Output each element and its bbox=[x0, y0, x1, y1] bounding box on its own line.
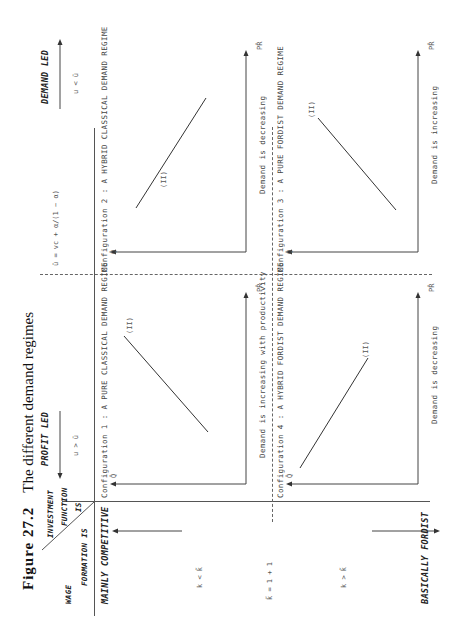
config-4-curve-label: (II) bbox=[362, 341, 370, 358]
config-4-plot bbox=[286, 284, 436, 494]
config-1-plot bbox=[110, 284, 260, 494]
config-1-note: Demand is increasing with productivity bbox=[258, 271, 267, 458]
row-boundary-formula: k̃ = 1 + 1 bbox=[266, 562, 274, 600]
config-3-label: Configuration 3 : A PURE FORDIST DEMAND … bbox=[276, 46, 285, 272]
demand-led-condition: u < ū bbox=[72, 73, 80, 94]
row-divider-dashed bbox=[272, 127, 273, 522]
column-header-demand-led: DEMAND LED bbox=[40, 50, 50, 104]
figure-title: Figure 27.2The different demand regimes bbox=[20, 312, 37, 590]
config-1-y-axis: Q̂ bbox=[110, 474, 118, 478]
config-1-label: Configuration 1 : A PURE CLASSICAL DEMAN… bbox=[100, 262, 109, 498]
row-label-basically-fordist: BASICALLY FORDIST bbox=[420, 512, 430, 604]
corner-function: FUNCTION bbox=[60, 487, 69, 526]
corner-wage: WAGE bbox=[64, 585, 73, 604]
config-2-label: Configuration 2 : A HYBRID CLASSICAL DEM… bbox=[100, 26, 109, 272]
config-2-plot bbox=[110, 42, 260, 262]
fordist-arrow bbox=[372, 526, 442, 536]
figure-number: Figure 27.2 bbox=[20, 507, 36, 590]
config-4-label: Configuration 4 : A HYBRID FORDIST DEMAN… bbox=[276, 262, 285, 498]
row-label-separator-line bbox=[62, 501, 430, 502]
config-2-x-axis: PR̂ bbox=[256, 42, 264, 50]
config-1-curve-label: (II) bbox=[126, 317, 134, 334]
demand-led-arrow bbox=[56, 39, 64, 109]
row-competitive-condition: k < k̃ bbox=[196, 567, 204, 588]
demand-regimes-figure: Figure 27.2The different demand regimes … bbox=[0, 0, 450, 634]
profit-led-arrow bbox=[56, 409, 64, 479]
config-3-note: Demand is increasing bbox=[430, 86, 439, 184]
column-header-profit-led: PROFIT LED bbox=[40, 412, 50, 466]
corner-investment: INVESTMENT bbox=[46, 490, 55, 538]
corner-is: IS bbox=[74, 502, 83, 512]
config-3-x-axis: PR̂ bbox=[428, 42, 436, 50]
config-4-note: Demand is decreasing bbox=[430, 326, 439, 424]
figure-title-text: The different demand regimes bbox=[20, 312, 36, 493]
config-3-curve-label: (II) bbox=[308, 101, 316, 118]
row-label-mainly-competitive: MAINLY COMPETITIVE bbox=[100, 506, 110, 604]
corner-formation-is: FORMATION IS bbox=[80, 528, 89, 586]
competitive-arrow bbox=[112, 526, 182, 536]
column-divider-dashed bbox=[40, 274, 432, 275]
config-2-curve-label: (II) bbox=[160, 171, 168, 188]
row-fordist-condition: k > k̃ bbox=[340, 567, 348, 588]
config-2-note: Demand is decreasing bbox=[258, 96, 267, 194]
config-3-plot bbox=[286, 42, 436, 262]
config-4-x-axis: PR̂ bbox=[428, 284, 436, 292]
column-boundary-formula: ū = vc + α/(1 − α) bbox=[52, 190, 60, 266]
config-2-y-axis: Q̂ bbox=[110, 250, 118, 254]
config-4-y-axis: Q̂ bbox=[286, 474, 294, 478]
config-3-y-axis: Q̂ bbox=[286, 250, 294, 254]
profit-led-condition: u > ū bbox=[72, 435, 80, 456]
